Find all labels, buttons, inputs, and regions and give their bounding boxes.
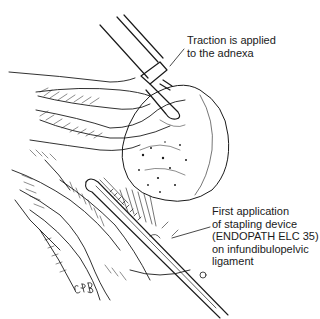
- stapling-leader-line: [172, 227, 210, 238]
- stapling-label-line-5: ligament: [212, 255, 319, 268]
- mass-speckles: [138, 141, 187, 193]
- traction-label-line-2: to the adnexa: [187, 47, 276, 60]
- leader-lines: [170, 49, 210, 238]
- traction-label: Traction is applied to the adnexa: [187, 34, 276, 59]
- stapling-label-line-3: (ENDOPATH ELC 35): [212, 230, 319, 243]
- stapling-label-line-2: of stapling device: [212, 218, 319, 231]
- stapling-label-line-1: First application: [212, 205, 319, 218]
- stapling-label: First application of stapling device (EN…: [212, 205, 319, 268]
- artist-signature: [75, 283, 93, 293]
- tissue-hatching: [22, 88, 126, 280]
- traction-label-line-1: Traction is applied: [187, 34, 276, 47]
- grasping-forceps: [100, 15, 180, 119]
- figure-canvas: Traction is applied to the adnexa First …: [0, 0, 320, 319]
- stapling-label-line-4: on infundibulopelvic: [212, 243, 319, 256]
- stapling-device: [86, 178, 228, 318]
- pelvic-tissue-folds: [9, 72, 190, 300]
- adnexa-mass: [122, 85, 229, 201]
- traction-leader-line: [170, 49, 184, 66]
